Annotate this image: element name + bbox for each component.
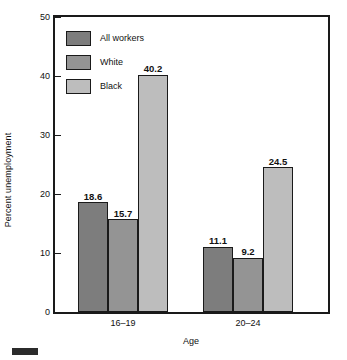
chart-legend: All workers White Black: [66, 30, 144, 102]
bar-chart: Percent unemployment 01020304050 18.615.…: [0, 0, 347, 360]
legend-label-white: White: [100, 57, 123, 67]
bar: 18.6: [78, 202, 108, 312]
legend-swatch-white: [66, 55, 91, 70]
legend-swatch-all-workers: [66, 31, 91, 46]
y-axis-tick-label: 20: [40, 190, 55, 199]
y-axis-title: Percent unemployment: [3, 133, 13, 228]
bar-value-label: 15.7: [114, 209, 133, 219]
bar: 40.2: [138, 75, 168, 312]
bar-value-label: 18.6: [84, 192, 103, 202]
page-corner-mark: [12, 348, 38, 355]
y-axis-tick-label: 10: [40, 249, 55, 258]
y-axis-tick-label: 0: [45, 308, 55, 317]
bar-value-label: 40.2: [144, 64, 163, 74]
legend-swatch-black: [66, 79, 91, 94]
bar: 11.1: [203, 247, 233, 312]
y-axis-tick-label: 30: [40, 131, 55, 140]
x-axis-category-label: 16–19: [110, 318, 135, 328]
bar: 15.7: [108, 219, 138, 312]
legend-label-black: Black: [100, 81, 122, 91]
bar-value-label: 24.5: [269, 157, 288, 167]
x-axis-title: Age: [183, 336, 199, 346]
legend-item: Black: [66, 78, 144, 94]
bar-value-label: 9.2: [241, 247, 254, 257]
y-axis-tick-label: 40: [40, 72, 55, 81]
legend-item: White: [66, 54, 144, 70]
legend-label-all-workers: All workers: [100, 33, 144, 43]
plot-area: 01020304050 18.615.740.211.19.224.5 All …: [53, 15, 330, 314]
y-axis-tick-label: 50: [40, 13, 55, 22]
bar: 9.2: [233, 258, 263, 312]
x-axis-category-label: 20–24: [235, 318, 260, 328]
y-axis-tick: [55, 312, 61, 313]
legend-item: All workers: [66, 30, 144, 46]
bar-value-label: 11.1: [209, 236, 227, 246]
bar: 24.5: [263, 167, 293, 312]
